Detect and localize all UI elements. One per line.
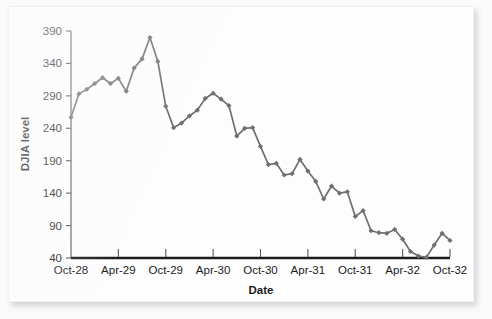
- x-tick-label: Oct-32: [433, 264, 468, 276]
- y-tick-label: 140: [43, 187, 62, 199]
- x-tick-label: Oct-29: [148, 264, 183, 276]
- x-tick-label: Oct-31: [338, 264, 373, 276]
- data-point-marker: [250, 125, 255, 130]
- y-tick-label: 40: [49, 252, 62, 264]
- x-tick-group: Oct-28Apr-29Oct-29Apr-30Oct-30Apr-31Oct-…: [54, 249, 468, 276]
- djia-series-markers: [68, 35, 452, 260]
- x-tick-label: Apr-29: [101, 264, 136, 276]
- data-point-marker: [266, 162, 271, 167]
- chart-card: 4090140190240290340390 Oct-28Apr-29Oct-2…: [8, 6, 474, 302]
- y-tick-label: 190: [43, 155, 62, 167]
- data-point-marker: [376, 230, 381, 235]
- data-point-marker: [68, 115, 73, 120]
- x-tick-label: Apr-31: [291, 264, 326, 276]
- y-axis-title: DJIA level: [19, 117, 31, 172]
- data-point-marker: [368, 228, 373, 233]
- y-tick-label: 290: [43, 90, 62, 102]
- data-point-marker: [147, 35, 152, 40]
- chart-page: 4090140190240290340390 Oct-28Apr-29Oct-2…: [0, 0, 492, 319]
- x-tick-label: Oct-28: [54, 264, 89, 276]
- y-tick-label: 240: [43, 122, 62, 134]
- x-tick-label: Apr-32: [385, 264, 420, 276]
- y-tick-group: 4090140190240290340390: [43, 25, 71, 264]
- y-tick-label: 90: [49, 220, 62, 232]
- x-tick-label: Oct-30: [243, 264, 278, 276]
- x-axis-title: Date: [249, 284, 274, 296]
- y-tick-label: 390: [43, 25, 62, 37]
- x-tick-label: Apr-30: [196, 264, 231, 276]
- data-point-marker: [155, 59, 160, 64]
- djia-line-chart: 4090140190240290340390 Oct-28Apr-29Oct-2…: [9, 7, 475, 303]
- data-point-marker: [345, 189, 350, 194]
- data-point-marker: [163, 104, 168, 109]
- data-point-marker: [258, 144, 263, 149]
- y-tick-label: 340: [43, 57, 62, 69]
